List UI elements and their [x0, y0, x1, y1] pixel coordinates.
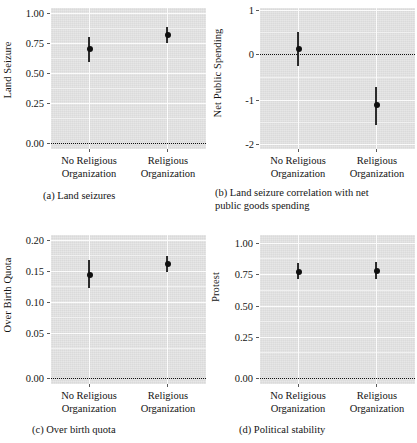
panel-c-ytick-label-0.20: 0.20 — [8, 236, 44, 246]
panel-c-xcat1-line2: Organization — [52, 403, 126, 416]
panel-c-gridline-0.15 — [51, 271, 206, 272]
panel-c-gridline-0.10 — [51, 302, 206, 303]
panel-b-gridline-minor--1.5 — [260, 122, 415, 123]
panel-c-xcat2-line1: Religious — [131, 390, 205, 403]
panel-b-caption: (b) Land seizure correlation with net pu… — [215, 186, 415, 212]
panel-b-xtick-mark-1 — [298, 149, 299, 152]
panel-b-ytick-mark-1 — [256, 10, 259, 11]
panel-d-xcat1-line1: No Religious — [261, 390, 335, 403]
panel-d-gridline-category-1 — [298, 235, 299, 384]
panel-c-over-birth-quota: Over Birth Quota 0.20 0.15 0.10 0.05 0.0… — [0, 222, 208, 443]
panel-c-ytick-label-0.10: 0.10 — [8, 298, 44, 308]
panel-d-gridline-minor-0.375 — [260, 321, 415, 322]
panel-b-xcat1-line1: No Religious — [261, 155, 335, 168]
panel-c-ytick-label-0.15: 0.15 — [8, 267, 44, 277]
panel-d-ytick-mark-1.00 — [256, 243, 259, 244]
panel-a-plot-area — [51, 8, 206, 149]
panel-b-xcat2-line2: Organization — [340, 168, 414, 181]
panel-d-xcat2-line1: Religious — [340, 390, 414, 403]
panel-c-ytick-mark-0.00 — [47, 378, 50, 379]
panel-b-point-1 — [296, 46, 302, 52]
panel-a-ytick-mark-1.00 — [47, 13, 50, 14]
panel-c-ytick-mark-0.20 — [47, 240, 50, 241]
panel-b-y-axis-title: Net Public Spending — [212, 0, 226, 148]
panel-b-gridline-1 — [260, 10, 415, 11]
panel-b-caption-line1: (b) Land seizure correlation with net — [215, 186, 415, 199]
panel-a-gridline-0.25 — [51, 103, 206, 104]
panel-d-point-1 — [296, 269, 302, 275]
panel-c-point-2 — [165, 261, 171, 267]
panel-d-ytick-mark-0.00 — [256, 378, 259, 379]
panel-a-ytick-label-0.00: 0.00 — [8, 139, 44, 149]
panel-d-gridline-0.75 — [260, 274, 415, 275]
panel-a-xcat2-line2: Organization — [131, 168, 205, 181]
panel-d-ytick-mark-0.25 — [256, 337, 259, 338]
panel-a-xtick-mark-2 — [167, 149, 168, 152]
panel-a-ytick-mark-0.50 — [47, 73, 50, 74]
panel-d-gridline-category-2 — [376, 235, 377, 384]
panel-a-ytick-mark-0.25 — [47, 103, 50, 104]
panel-b-ytick-label--1: -1 — [230, 96, 254, 106]
panel-b-land-seizure-net-public-spending: Net Public Spending 1 0 -1 -2 No — [209, 0, 417, 221]
panel-a-point-1 — [87, 46, 93, 52]
panel-b-gridline--1 — [260, 100, 415, 101]
panel-c-xcat1-line1: No Religious — [52, 390, 126, 403]
panel-a-land-seizures: Land Seizure 1.00 0.75 0.50 0.25 0.00 — [0, 0, 208, 221]
panel-d-ytick-label-0.25: 0.25 — [217, 333, 253, 343]
panel-a-reference-line-zero — [51, 143, 206, 144]
panel-c-reference-line-zero — [51, 378, 206, 379]
panel-d-gridline-minor-0.875 — [260, 258, 415, 259]
panel-a-xtick-mark-1 — [89, 149, 90, 152]
panel-a-ytick-mark-0.00 — [47, 143, 50, 144]
panel-a-gridline-0.50 — [51, 73, 206, 74]
panel-a-xcat1-line2: Organization — [52, 168, 126, 181]
panel-a-ytick-label-1.00: 1.00 — [8, 9, 44, 19]
panel-d-xtick-mark-1 — [298, 384, 299, 387]
panel-b-ytick-mark--1 — [256, 100, 259, 101]
panel-a-ytick-label-0.25: 0.25 — [8, 99, 44, 109]
panel-a-xcat-label-religious-organization: Religious Organization — [131, 155, 205, 180]
panel-d-xtick-mark-2 — [376, 384, 377, 387]
panel-a-ytick-label-0.75: 0.75 — [8, 39, 44, 49]
panel-d-gridline-0.25 — [260, 337, 415, 338]
panel-d-xcat2-line2: Organization — [340, 403, 414, 416]
panel-c-xcat2-line2: Organization — [131, 403, 205, 416]
panel-d-political-stability: Protest 1.00 0.75 0.50 0.25 0.00 — [209, 222, 417, 443]
panel-c-gridline-minor-0.025 — [51, 348, 206, 349]
panel-c-ytick-mark-0.10 — [47, 302, 50, 303]
panel-c-point-1 — [87, 272, 93, 278]
panel-d-xcat-label-no-religious-organization: No Religious Organization — [261, 390, 335, 415]
panel-d-plot-area — [260, 235, 415, 384]
panel-c-ytick-label-0.00: 0.00 — [8, 374, 44, 384]
panel-a-gridline-minor-0.125 — [51, 118, 206, 119]
panel-b-ytick-mark-0 — [256, 54, 259, 55]
panel-b-gridline-minor--0.5 — [260, 77, 415, 78]
panel-c-gridline-minor-0.125 — [51, 286, 206, 287]
panel-c-xcat-label-no-religious-organization: No Religious Organization — [52, 390, 126, 415]
panel-a-ytick-mark-0.75 — [47, 43, 50, 44]
panel-c-gridline-0.05 — [51, 333, 206, 334]
panel-c-xtick-mark-2 — [167, 384, 168, 387]
panel-d-ytick-label-0.50: 0.50 — [217, 302, 253, 312]
panel-c-xtick-mark-1 — [89, 384, 90, 387]
panel-b-xcat-label-religious-organization: Religious Organization — [340, 155, 414, 180]
panel-a-point-2 — [165, 32, 171, 38]
panel-c-plot-area — [51, 235, 206, 384]
panel-d-ytick-label-0.00: 0.00 — [217, 374, 253, 384]
panel-d-ytick-mark-0.75 — [256, 274, 259, 275]
panel-d-gridline-0.50 — [260, 306, 415, 307]
panel-b-point-2 — [374, 102, 380, 108]
panel-a-gridline-1.00 — [51, 13, 206, 14]
panel-c-gridline-minor-0.175 — [51, 255, 206, 256]
panel-b-gridline-category-1 — [298, 8, 299, 149]
panel-a-xcat-label-no-religious-organization: No Religious Organization — [52, 155, 126, 180]
panel-d-ytick-label-1.00: 1.00 — [217, 239, 253, 249]
panel-c-gridline-0.20 — [51, 240, 206, 241]
panel-b-ytick-label-0: 0 — [230, 50, 254, 60]
panel-b-gridline-minor-0.5 — [260, 32, 415, 33]
panel-c-ytick-label-0.05: 0.05 — [8, 329, 44, 339]
panel-d-gridline-minor-0.625 — [260, 290, 415, 291]
figure-root: Land Seizure 1.00 0.75 0.50 0.25 0.00 — [0, 0, 417, 443]
panel-d-xcat-label-religious-organization: Religious Organization — [340, 390, 414, 415]
panel-a-gridline-minor-0.375 — [51, 88, 206, 89]
